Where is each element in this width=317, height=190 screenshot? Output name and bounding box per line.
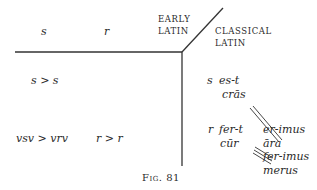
early-latin-line-2: LATIN [158,25,190,37]
form-cur: cūr [220,137,239,150]
form-ara: āra [263,137,281,150]
classical-latin-line-2: LATIN [215,37,272,49]
early-rule-r: r > r [96,132,123,145]
column-header-s: s [41,25,47,38]
early-rule-vsv: vsv > vrv [16,132,68,145]
classical-r-marker: r [208,123,213,136]
classical-latin-line-1: CLASSICAL [215,25,272,37]
early-rule-s: s > s [31,74,59,87]
form-es-t: es-t [219,74,239,87]
form-er-imus: er-imus [263,123,305,136]
column-header-r: r [104,25,109,38]
form-merus: merus [263,164,298,177]
form-fer-t: fer-t [219,123,243,136]
form-fer-imus: fer-imus [263,150,309,163]
classical-latin-label: CLASSICAL LATIN [215,25,272,49]
classical-s-marker: s [207,74,213,87]
figure-caption: Fig. 81 [142,172,180,183]
early-latin-label: EARLY LATIN [158,13,190,37]
early-latin-line-1: EARLY [158,13,190,25]
form-cras: crās [222,88,246,101]
